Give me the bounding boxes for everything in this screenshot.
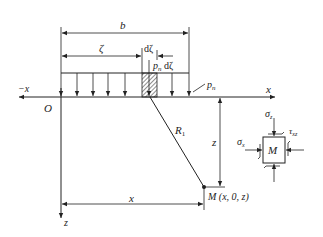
label-depth-z: z: [211, 136, 217, 148]
label-element-m: M: [267, 144, 278, 156]
label-origin: O: [44, 102, 52, 114]
label-z-axis: z: [63, 217, 68, 228]
label-horizontal-x: x: [128, 192, 134, 204]
label-dzeta: dζ: [144, 43, 153, 55]
label-b: b: [120, 19, 126, 31]
label-zeta: ζ: [99, 42, 105, 55]
r1-line: [150, 97, 204, 187]
label-sigma-z: σz: [265, 108, 273, 120]
strip-load-diagram: b ζ dζ pn dζ pn −x x O z R1 z x M (x, 0,…: [0, 0, 323, 237]
label-pn: pn: [206, 79, 216, 92]
label-point-m: M (x, 0, z): [207, 191, 249, 203]
label-sigma-x: σx: [237, 136, 245, 148]
load-element-dzeta: [142, 73, 157, 97]
label-x-axis: x: [265, 83, 271, 95]
label-neg-x: −x: [18, 83, 30, 94]
label-pn-dzeta: pn dζ: [152, 60, 173, 73]
label-r1: R1: [174, 124, 186, 138]
label-tau-xz: τxz: [289, 126, 298, 137]
load-arrows: [61, 73, 189, 96]
